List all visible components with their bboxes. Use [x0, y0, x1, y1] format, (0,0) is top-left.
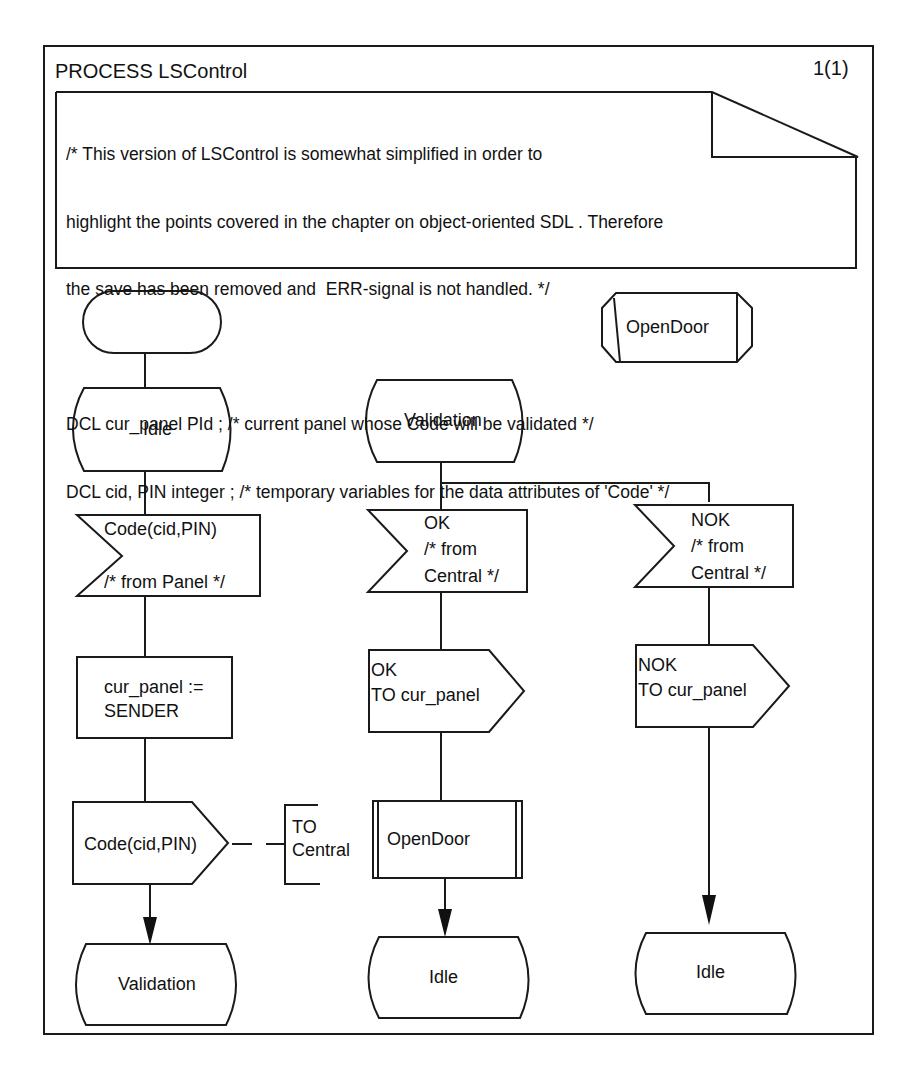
input-nok-comment-1: /* from — [691, 536, 744, 557]
output-ok-signal: OK — [371, 660, 397, 681]
task-line-2: SENDER — [104, 701, 179, 722]
output-ok-destination: TO cur_panel — [371, 685, 480, 706]
output-code-label: Code(cid,PIN) — [84, 834, 197, 855]
output-nok-destination: TO cur_panel — [638, 680, 747, 701]
input-code-signal: Code(cid,PIN) — [104, 519, 217, 540]
procedure-reference-label: OpenDoor — [626, 317, 709, 338]
input-code-comment: /* from Panel */ — [104, 572, 225, 593]
input-nok-comment-2: Central */ — [691, 563, 766, 584]
nextstate-idle-middle-label: Idle — [429, 967, 458, 988]
page-number: 1(1) — [813, 56, 849, 80]
state-idle-label: Idle — [143, 419, 172, 440]
dcl-line: DCL cid, PIN integer ; /* temporary vari… — [66, 481, 669, 504]
input-ok-comment-1: /* from — [424, 539, 477, 560]
process-title: PROCESS LSControl — [55, 59, 247, 83]
output-comment-line-1: TO — [292, 817, 317, 838]
text-symbol-content: /* This version of LSControl is somewhat… — [66, 98, 669, 526]
comment-line: highlight the points covered in the chap… — [66, 211, 669, 234]
output-nok-signal: NOK — [638, 655, 677, 676]
task-line-1: cur_panel := — [104, 677, 204, 698]
input-nok-signal: NOK — [691, 510, 730, 531]
comment-line: /* This version of LSControl is somewhat… — [66, 143, 669, 166]
comment-line: the save has been removed and ERR-signal… — [66, 278, 669, 301]
input-ok-comment-2: Central */ — [424, 566, 499, 587]
nextstate-validation-label: Validation — [118, 974, 196, 995]
comment-line — [66, 346, 669, 369]
input-ok-signal: OK — [424, 513, 450, 534]
output-comment-line-2: Central — [292, 840, 350, 861]
state-validation-label: Validation — [404, 410, 482, 431]
procedure-call-label: OpenDoor — [387, 829, 470, 850]
nextstate-idle-right-label: Idle — [696, 962, 725, 983]
